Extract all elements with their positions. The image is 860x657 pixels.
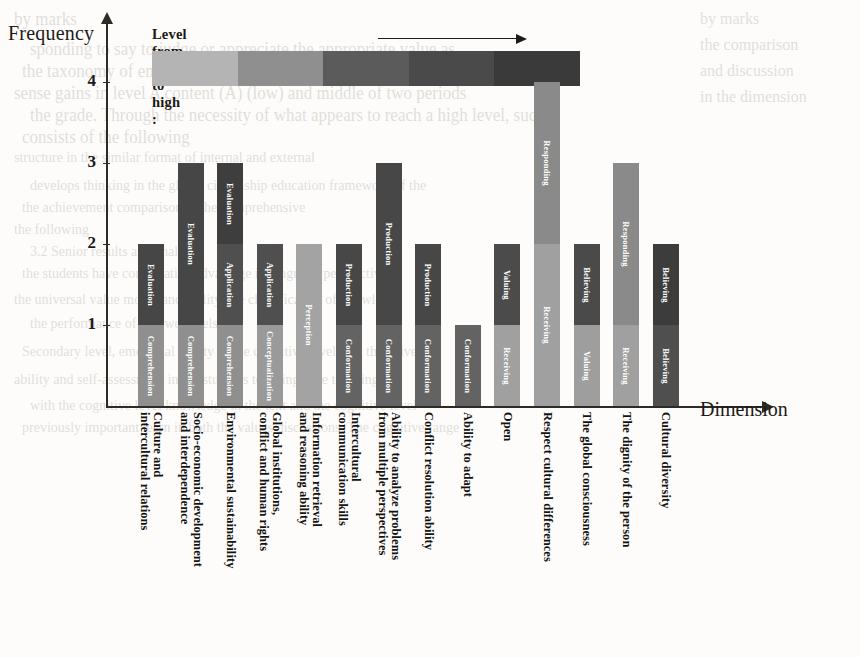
bar-segment-label: Application	[225, 262, 235, 307]
bar-segment-label: Evaluation	[225, 182, 235, 224]
bar-segment-label: Responding	[621, 221, 631, 266]
bar-segment-label: Valuing	[502, 270, 512, 300]
bar-1[interactable]: EvaluationComprehension	[138, 244, 164, 406]
bar-11[interactable]: RespondingReceiving	[534, 82, 560, 406]
bar-segment-label: Conformation	[463, 338, 473, 392]
x-label-13: The dignity of the person	[620, 412, 633, 547]
bar-segment: Believing	[653, 244, 679, 325]
bar-12[interactable]: BelievingValuing	[574, 244, 600, 406]
bar-14[interactable]: BelievingBelieving	[653, 244, 679, 406]
y-tick-mark	[103, 325, 110, 326]
bar-segment: Evaluation	[138, 244, 164, 325]
bar-segment: Believing	[574, 244, 600, 325]
bar-segment-label: Comprehension	[186, 335, 196, 396]
y-tick-mark	[103, 163, 110, 164]
bar-segment: Believing	[653, 325, 679, 406]
stacked-bar-chart: Frequency Dimension 4321 Level from low …	[0, 0, 860, 657]
bar-segment: Evaluation	[217, 163, 243, 244]
x-label-1: Culture and intercultural relations	[138, 412, 164, 531]
bar-segment: Valuing	[574, 325, 600, 406]
x-label-12: The global consciousness	[580, 412, 593, 546]
bar-3[interactable]: EvaluationApplicationComprehension	[217, 163, 243, 406]
bar-segment: Comprehension	[217, 325, 243, 406]
bar-segment: Receiving	[534, 244, 560, 406]
bar-segment: Comprehension	[178, 325, 204, 406]
bar-segment: Comprehension	[138, 325, 164, 406]
bar-segment: Responding	[613, 163, 639, 325]
bar-segment-label: Evaluation	[146, 263, 156, 305]
bar-segment-label: Conformation	[423, 338, 433, 392]
bar-6[interactable]: ProductionConformation	[336, 244, 362, 406]
x-label-8: Conflict resolution ability	[422, 412, 435, 550]
bar-segment-label: Conformation	[344, 338, 354, 392]
bar-segment: Perception	[296, 244, 322, 406]
bar-5[interactable]: Perception	[296, 244, 322, 406]
bar-segment: Valuing	[494, 244, 520, 325]
bar-segment-label: Receiving	[621, 347, 631, 385]
bar-segment: Production	[376, 163, 402, 325]
bar-segment: Application	[257, 244, 283, 325]
bar-segment-label: Believing	[661, 348, 671, 384]
bar-segment: Application	[217, 244, 243, 325]
bar-9[interactable]: Conformation	[455, 325, 481, 406]
x-label-10: Open	[501, 412, 514, 441]
bar-4[interactable]: ApplicationConceptualization	[257, 244, 283, 406]
bar-segment-label: Responding	[542, 140, 552, 185]
bar-7[interactable]: ProductionConformation	[376, 163, 402, 406]
bar-segment-label: Evaluation	[186, 223, 196, 265]
bar-segment-label: Valuing	[582, 351, 592, 381]
bar-segment: Responding	[534, 82, 560, 244]
x-label-7: Ability to analyze problems from multipl…	[376, 412, 402, 560]
bar-segment-label: Believing	[582, 267, 592, 303]
bar-segment-label: Production	[384, 223, 394, 266]
y-tick-mark	[103, 82, 110, 83]
x-axis-line	[106, 406, 766, 408]
bar-segment-label: Perception	[304, 304, 314, 345]
bar-segment-label: Production	[344, 263, 354, 306]
bar-segment-label: Comprehension	[225, 335, 235, 396]
bar-segment-label: Receiving	[542, 306, 552, 344]
bar-segment-label: Comprehension	[146, 335, 156, 396]
bar-13[interactable]: RespondingReceiving	[613, 163, 639, 406]
y-axis-title: Frequency	[8, 22, 94, 45]
x-label-2: Socio-economic development and interdepe…	[178, 412, 204, 567]
bar-segment-label: Believing	[661, 267, 671, 303]
x-label-9: Ability to adapt	[461, 412, 474, 497]
x-label-4: Global institutions, conflict and human …	[257, 412, 283, 551]
bar-segment: Production	[415, 244, 441, 325]
x-label-14: Cultural diversity	[659, 412, 672, 508]
bar-segment: Conformation	[415, 325, 441, 406]
y-tick-mark	[103, 244, 110, 245]
bar-segment: Production	[336, 244, 362, 325]
bar-segment: Conceptualization	[257, 325, 283, 406]
bar-segment-label: Conformation	[384, 338, 394, 392]
bar-segment-label: Conceptualization	[265, 330, 275, 400]
x-label-5: Information retrieval and reasoning abil…	[296, 412, 322, 527]
bar-segment: Receiving	[613, 325, 639, 406]
bar-2[interactable]: EvaluationComprehension	[178, 163, 204, 406]
bar-segment: Conformation	[376, 325, 402, 406]
bar-segment: Evaluation	[178, 163, 204, 325]
x-label-3: Environmental sustainability	[224, 412, 237, 568]
x-label-11: Respect cultural differences	[541, 412, 554, 562]
bar-8[interactable]: ProductionConformation	[415, 244, 441, 406]
bar-segment: Conformation	[336, 325, 362, 406]
bar-segment-label: Production	[423, 263, 433, 306]
bar-segment: Conformation	[455, 325, 481, 406]
plot-area: EvaluationComprehensionEvaluationCompreh…	[107, 22, 767, 406]
x-label-6: Intercultural communication skills	[336, 412, 362, 526]
bar-segment-label: Application	[265, 262, 275, 307]
bar-10[interactable]: ValuingReceiving	[494, 244, 520, 406]
bar-segment-label: Receiving	[502, 347, 512, 385]
bar-segment: Receiving	[494, 325, 520, 406]
